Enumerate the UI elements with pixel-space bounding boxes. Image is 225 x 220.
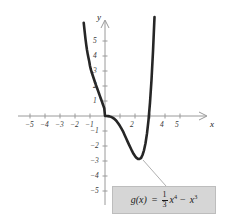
x-tick-label--5: −5 [25, 121, 34, 129]
x-tick-label-2: 2 [130, 121, 134, 129]
formula-expression: g(x) = 1 3 x4 − x3 [131, 191, 197, 209]
x-tick-label--4: −4 [40, 121, 49, 129]
y-tick-label-3: 3 [93, 67, 97, 75]
formula-numerator: 1 [162, 191, 168, 200]
formula-callout-box: g(x) = 1 3 x4 − x3 [112, 186, 216, 214]
formula-fraction: 1 3 [162, 191, 168, 209]
y-axis-label: y [97, 13, 101, 22]
formula-equals: = [152, 195, 158, 205]
y-tick-label--2: −2 [90, 142, 99, 150]
formula-denominator: 3 [162, 200, 168, 210]
x-axis-label: x [210, 120, 214, 129]
function-graph-figure: −5−4−3−2−124554321−1−2−3−4−5 y x g(x) = … [0, 0, 225, 220]
formula-term1: x4 [170, 194, 178, 205]
x-tick-label-4: 4 [160, 121, 164, 129]
y-tick-label--3: −3 [90, 157, 99, 165]
formula-operator: − [180, 195, 186, 205]
x-tick-label--3: −3 [55, 121, 64, 129]
formula-lhs: g(x) [131, 195, 147, 205]
y-tick-label-1: 1 [93, 97, 97, 105]
y-tick-label--5: −5 [90, 187, 99, 195]
x-tick-label-5: 5 [175, 121, 179, 129]
y-tick-label--1: −1 [90, 127, 99, 135]
callout-leader-line [143, 160, 166, 186]
y-tick-label-2: 2 [93, 82, 97, 90]
x-tick-label--2: −2 [70, 121, 79, 129]
formula-term1-exponent: 4 [174, 193, 177, 200]
y-tick-label--4: −4 [90, 172, 99, 180]
formula-term2-exponent: 3 [194, 193, 197, 200]
y-tick-label-5: 5 [93, 37, 97, 45]
y-tick-label-4: 4 [93, 52, 97, 60]
formula-term2: x3 [190, 194, 198, 205]
